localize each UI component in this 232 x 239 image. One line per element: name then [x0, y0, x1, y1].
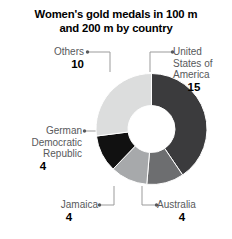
donut-slice	[96, 74, 151, 137]
leader-line-australia	[142, 186, 155, 205]
slice-label-usa: United States of America 15	[173, 46, 229, 93]
slice-label-others-name: Others	[54, 46, 84, 57]
slice-label-gdr-name-2: Democratic	[31, 137, 82, 148]
slice-label-gdr-name-3: Republic	[43, 148, 82, 159]
slice-label-usa-name-1: United	[173, 46, 202, 57]
slice-label-jamaica: Jamaica 4	[40, 199, 98, 223]
slice-label-usa-name-3: America	[173, 69, 210, 80]
slice-label-australia-value: 4	[157, 212, 207, 224]
leader-line-others	[89, 52, 110, 72]
slice-label-jamaica-value: 4	[40, 212, 98, 224]
leader-line-usa	[150, 52, 171, 72]
leader-line-jamaica	[101, 186, 114, 205]
leader-dot-gdr	[83, 129, 86, 132]
slice-label-gdr-value: 4	[4, 161, 82, 173]
slice-label-jamaica-name: Jamaica	[61, 199, 98, 210]
slice-label-australia-name: Australia	[157, 199, 196, 210]
slice-label-usa-name-2: States of	[173, 58, 212, 69]
chart-container: Women's gold medals in 100 m and 200 m b…	[0, 0, 232, 239]
slice-label-usa-value: 15	[173, 82, 215, 94]
leader-dot-jamaica	[98, 203, 101, 206]
slice-label-australia: Australia 4	[157, 199, 219, 223]
slice-label-others-value: 10	[16, 59, 84, 71]
slice-label-gdr-name-1: German	[46, 125, 82, 136]
slice-label-others: Others 10	[16, 46, 84, 70]
leader-dot-others	[86, 50, 89, 53]
slice-label-gdr: German Democratic Republic 4	[4, 125, 82, 172]
